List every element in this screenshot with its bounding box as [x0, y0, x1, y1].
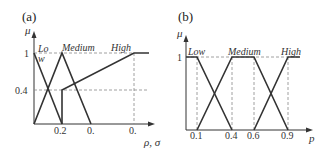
panel-b-set-label-medium: Medium — [227, 46, 261, 57]
panel-b-x-tick-0-9: 0.9 — [281, 130, 294, 141]
panel-a-set-label-medium: Medium — [61, 42, 95, 53]
panel-b-x-tick-0-1: 0.1 — [190, 130, 203, 141]
panel-a-label: (a) — [22, 9, 36, 24]
panel-a-y-axis-arrow-icon — [32, 31, 37, 38]
panel-a-x-tick-2: 0. — [87, 125, 95, 136]
panel-b-x-axis-label: p — [308, 132, 315, 144]
panel-a-y-tick-0-4: 0.4 — [15, 85, 28, 96]
panel-b-y-tick-1: 1 — [177, 52, 182, 63]
panel-b-y-axis-label: μ — [176, 27, 183, 39]
panel-a-x-axis-arrow-icon — [148, 122, 155, 127]
panel-a-y-tick-1: 1 — [24, 48, 29, 59]
panel-b: (b) μ p 1 0.1 0.4 0.6 0.9 Low Medium Hig… — [176, 9, 315, 144]
panel-a-set-label-high: High — [110, 42, 131, 53]
panel-a-x-axis-label: ρ, σ — [143, 136, 161, 148]
panel-b-x-tick-0-4: 0.4 — [225, 130, 238, 141]
panel-a-high-curve — [62, 53, 149, 124]
panel-b-x-tick-0-6: 0.6 — [247, 130, 260, 141]
panel-b-y-axis-arrow-icon — [184, 35, 189, 42]
panel-b-label: (b) — [178, 9, 193, 24]
panel-b-medium-curve — [197, 57, 288, 130]
fuzzy-membership-figure: (a) μ ρ, σ 1 0.4 0.2 0. 0. Lo w Medium H… — [0, 0, 330, 156]
panel-a: (a) μ ρ, σ 1 0.4 0.2 0. 0. Lo w Medium H… — [15, 9, 161, 148]
panel-b-set-label-low: Low — [187, 46, 206, 57]
panel-b-high-curve — [254, 57, 300, 130]
panel-b-low-curve — [186, 57, 232, 130]
panel-a-y-axis-label: μ — [24, 24, 31, 36]
panel-a-set-label-low-line2: w — [38, 53, 45, 64]
panel-b-set-label-high: High — [280, 46, 301, 57]
panel-a-x-tick-3: 0. — [129, 125, 137, 136]
panel-a-x-tick-0-2: 0.2 — [54, 125, 67, 136]
